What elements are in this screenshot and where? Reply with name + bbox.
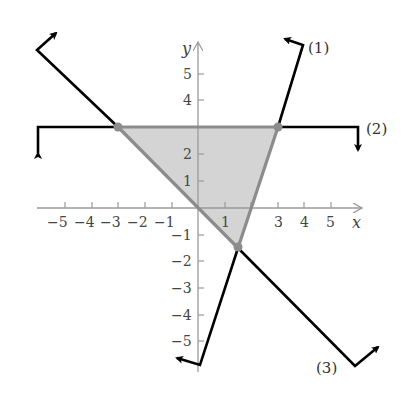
y-tick-label: −2 bbox=[171, 253, 192, 269]
coordinate-plane: −5 −4 −3 −2 −1 1 3 4 5 x 5 4 2 1 −1 −2 −… bbox=[0, 0, 410, 401]
line-label-1: (1) bbox=[308, 39, 329, 57]
y-tick-label: 2 bbox=[183, 146, 192, 162]
x-tick-label: 3 bbox=[274, 214, 283, 230]
y-tick-label: −3 bbox=[171, 280, 192, 296]
x-tick-label: −4 bbox=[74, 214, 95, 230]
x-tick-label: 4 bbox=[300, 214, 309, 230]
y-tick-label: 1 bbox=[183, 173, 192, 189]
x-tick-label: 1 bbox=[221, 214, 230, 230]
x-tick-label: −5 bbox=[47, 214, 68, 230]
y-tick-label: 4 bbox=[183, 92, 192, 108]
y-tick-label: 5 bbox=[183, 66, 192, 82]
graph-figure: −5 −4 −3 −2 −1 1 3 4 5 x 5 4 2 1 −1 −2 −… bbox=[0, 0, 410, 401]
line-label-3: (3) bbox=[316, 359, 337, 377]
x-tick-label: −3 bbox=[100, 214, 121, 230]
vertex-point bbox=[274, 123, 283, 132]
y-tick-label: −1 bbox=[171, 227, 192, 243]
y-tick-label: −5 bbox=[171, 333, 192, 349]
x-tick-label: 5 bbox=[326, 214, 335, 230]
line-label-2: (2) bbox=[366, 120, 387, 138]
y-tick-label: −4 bbox=[171, 307, 192, 323]
vertex-point bbox=[114, 123, 123, 132]
y-axis-label: y bbox=[181, 39, 192, 58]
x-tick-label: −2 bbox=[127, 214, 148, 230]
vertex-point bbox=[234, 243, 243, 252]
x-axis-label: x bbox=[352, 213, 361, 232]
